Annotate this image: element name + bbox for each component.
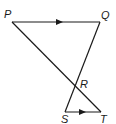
parallel-arrow-icon-pq (56, 19, 63, 25)
segment-qs (65, 22, 100, 112)
triangle-diagram: P Q R S T (0, 0, 116, 124)
parallel-arrow-icon-st (79, 109, 86, 115)
label-t: T (100, 113, 108, 124)
label-s: S (61, 113, 69, 124)
label-p: P (4, 8, 12, 20)
segment-pt (12, 22, 101, 112)
label-q: Q (101, 9, 110, 21)
label-r: R (80, 78, 88, 90)
